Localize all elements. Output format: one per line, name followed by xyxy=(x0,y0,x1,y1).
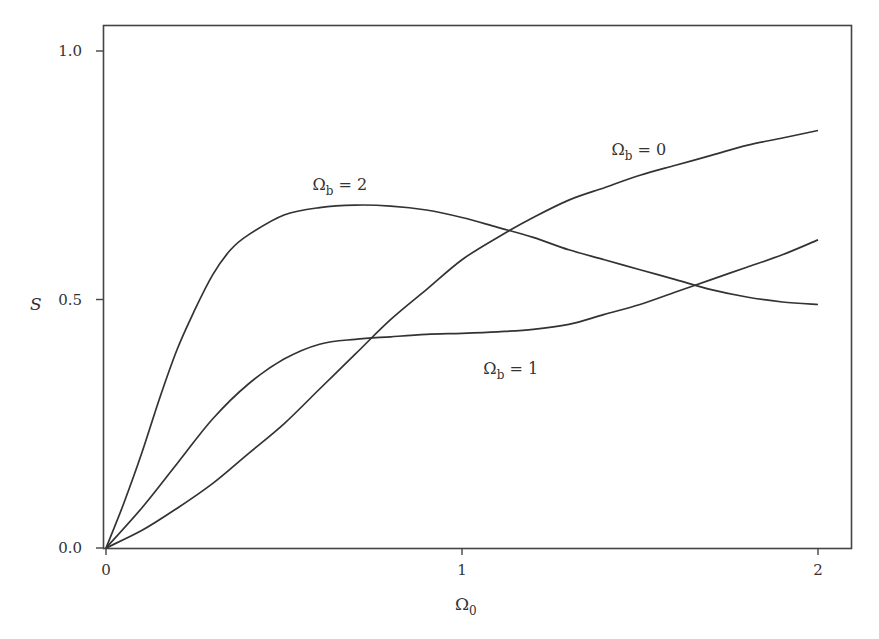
curve-label: Ωb = 0 xyxy=(612,140,667,163)
curve-label: Ωb = 2 xyxy=(312,175,367,198)
x-tick-label: 2 xyxy=(813,561,823,579)
x-axis-label: Ω0 xyxy=(455,594,477,618)
x-axis-label-main: Ω xyxy=(455,594,469,614)
y-tick-label: 1.0 xyxy=(58,42,82,60)
curve-omega-b-1 xyxy=(106,240,818,548)
curve-omega-b-0 xyxy=(106,131,818,549)
curve-labels: Ωb = 2Ωb = 1Ωb = 0 xyxy=(312,140,666,382)
chart: 0120.00.51.0 Ωb = 2Ωb = 1Ωb = 0 S Ω0 xyxy=(0,0,879,639)
x-axis-label-sub: 0 xyxy=(469,604,477,618)
curve-label: Ωb = 1 xyxy=(483,359,538,382)
plot-frame xyxy=(104,26,852,549)
x-tick-label: 0 xyxy=(101,561,111,579)
x-tick-label: 1 xyxy=(457,561,467,579)
y-axis-label: S xyxy=(30,294,42,314)
axis-ticks: 0120.00.51.0 xyxy=(58,42,823,579)
y-tick-label: 0.5 xyxy=(58,291,82,309)
curves xyxy=(106,131,818,549)
curve-omega-b-2 xyxy=(106,205,818,548)
y-tick-label: 0.0 xyxy=(58,539,82,557)
